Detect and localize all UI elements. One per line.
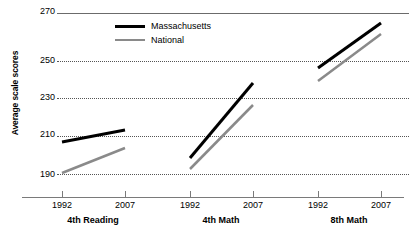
x-tick-5 (318, 191, 319, 197)
line-massachusetts-4th-reading (62, 130, 125, 142)
x-tick-3 (190, 191, 191, 197)
x-tick-label-6: 2007 (361, 200, 401, 210)
y-tick-label-270: 270 (31, 6, 55, 16)
line-national-4th-math (190, 105, 253, 169)
legend-swatch-national (115, 39, 145, 41)
chart-container: Average scale scores 270 250 230 210 190… (0, 0, 409, 244)
x-tick-label-2: 2007 (105, 200, 145, 210)
line-national-8th-math (318, 34, 381, 81)
x-tick-label-4: 2007 (233, 200, 273, 210)
line-massachusetts-4th-math (190, 83, 253, 158)
x-tick-2 (125, 191, 126, 197)
x-tick-1 (62, 191, 63, 197)
group-label-4th-reading: 4th Reading (33, 215, 153, 225)
legend-item-national: National (115, 33, 265, 47)
line-massachusetts-8th-math (318, 23, 381, 68)
x-tick-label-5: 1992 (298, 200, 338, 210)
legend: Massachusetts National (115, 19, 265, 47)
y-tick-label-230: 230 (31, 92, 55, 102)
x-axis-line (22, 197, 404, 198)
x-tick-label-3: 1992 (170, 200, 210, 210)
group-label-4th-math: 4th Math (161, 215, 281, 225)
x-tick-label-1: 1992 (42, 200, 82, 210)
legend-item-massachusetts: Massachusetts (115, 19, 265, 33)
legend-swatch-massachusetts (115, 25, 145, 28)
y-tick-label-250: 250 (31, 55, 55, 65)
group-label-8th-math: 8th Math (289, 215, 409, 225)
line-national-4th-reading (62, 148, 125, 173)
x-tick-6 (381, 191, 382, 197)
y-tick-label-210: 210 (31, 129, 55, 139)
legend-label-national: National (151, 35, 184, 45)
legend-label-massachusetts: Massachusetts (151, 21, 211, 31)
y-tick-label-190: 190 (31, 169, 55, 179)
x-tick-4 (253, 191, 254, 197)
y-axis-title: Average scale scores (10, 33, 20, 153)
